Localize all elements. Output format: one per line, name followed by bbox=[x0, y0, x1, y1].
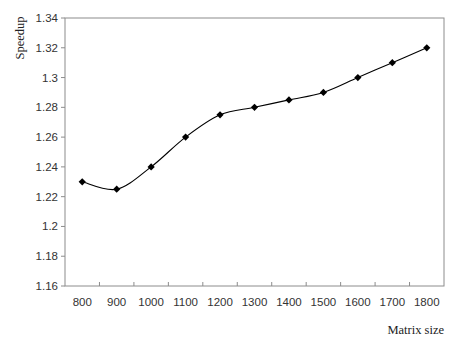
diamond-marker bbox=[423, 44, 430, 51]
y-tick-label: 1.16 bbox=[36, 280, 58, 292]
y-axis-ticks: 1.161.181.21.221.241.261.281.31.321.34 bbox=[36, 12, 65, 292]
y-tick-label: 1.32 bbox=[36, 42, 58, 54]
y-tick-label: 1.28 bbox=[36, 101, 58, 113]
x-tick-label: 1200 bbox=[207, 296, 233, 308]
y-tick-label: 1.26 bbox=[36, 131, 58, 143]
diamond-marker bbox=[113, 186, 120, 193]
diamond-marker bbox=[389, 59, 396, 66]
x-tick-label: 1500 bbox=[311, 296, 337, 308]
x-tick-label: 1700 bbox=[380, 296, 406, 308]
diamond-marker bbox=[285, 96, 292, 103]
x-tick-label: 1300 bbox=[242, 296, 268, 308]
diamond-marker bbox=[320, 89, 327, 96]
series-line-speedup bbox=[82, 48, 427, 190]
speedup-line-chart: 1.161.181.21.221.241.261.281.31.321.34 8… bbox=[0, 0, 456, 342]
y-tick-label: 1.3 bbox=[42, 72, 58, 84]
diamond-marker bbox=[79, 178, 86, 185]
y-tick-label: 1.34 bbox=[36, 12, 59, 24]
y-axis-title: Speedup bbox=[13, 16, 27, 59]
y-tick-label: 1.2 bbox=[42, 220, 58, 232]
y-tick-label: 1.22 bbox=[36, 191, 58, 203]
plot-area-frame bbox=[65, 18, 444, 286]
y-tick-label: 1.18 bbox=[36, 250, 58, 262]
x-tick-label: 1400 bbox=[276, 296, 302, 308]
x-tick-label: 1000 bbox=[138, 296, 164, 308]
data-point-markers bbox=[79, 44, 431, 193]
x-axis-title: Matrix size bbox=[387, 323, 444, 337]
y-tick-label: 1.24 bbox=[36, 161, 59, 173]
x-tick-label: 1600 bbox=[345, 296, 371, 308]
diamond-marker bbox=[216, 111, 223, 118]
diamond-marker bbox=[251, 104, 258, 111]
diamond-marker bbox=[354, 74, 361, 81]
x-tick-label: 1100 bbox=[173, 296, 198, 308]
x-tick-label: 800 bbox=[73, 296, 92, 308]
x-tick-label: 900 bbox=[107, 296, 126, 308]
x-tick-label: 1800 bbox=[414, 296, 440, 308]
